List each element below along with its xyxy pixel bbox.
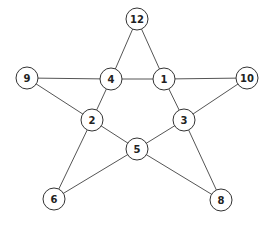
nodes-layer: 129411023568 bbox=[16, 8, 258, 211]
node-label: 1 bbox=[161, 74, 168, 85]
node-1: 1 bbox=[153, 68, 175, 90]
node-label: 8 bbox=[218, 195, 225, 206]
edge-9-4 bbox=[27, 78, 111, 79]
edge-5-8 bbox=[137, 149, 221, 200]
node-label: 2 bbox=[89, 115, 96, 126]
node-5: 5 bbox=[126, 138, 148, 160]
node-10: 10 bbox=[236, 67, 258, 89]
edge-1-10 bbox=[164, 78, 247, 79]
node-label: 6 bbox=[51, 194, 58, 205]
node-12: 12 bbox=[126, 8, 148, 30]
node-label: 5 bbox=[134, 144, 141, 155]
node-label: 12 bbox=[130, 14, 144, 25]
node-4: 4 bbox=[100, 68, 122, 90]
edge-9-2 bbox=[27, 78, 92, 120]
node-9: 9 bbox=[16, 67, 38, 89]
graph-diagram: 129411023568 bbox=[0, 0, 274, 229]
node-2: 2 bbox=[81, 109, 103, 131]
edges-layer bbox=[27, 19, 247, 200]
node-label: 4 bbox=[108, 74, 115, 85]
node-6: 6 bbox=[43, 188, 65, 210]
node-label: 10 bbox=[240, 73, 254, 84]
node-label: 3 bbox=[181, 115, 188, 126]
node-label: 9 bbox=[24, 73, 31, 84]
node-3: 3 bbox=[173, 109, 195, 131]
node-8: 8 bbox=[210, 189, 232, 211]
edge-3-8 bbox=[184, 120, 221, 200]
